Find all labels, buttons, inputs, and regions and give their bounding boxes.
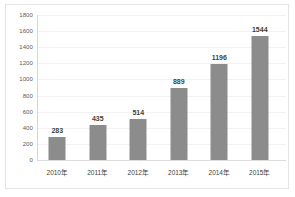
bar-value-label: 1544 (252, 26, 268, 33)
bar-group: 8892013年 (159, 15, 200, 160)
bar-value-label: 514 (132, 109, 144, 116)
x-axis-tick-label: 2013年 (168, 167, 189, 177)
y-axis-tick-label: 1200 (19, 60, 33, 66)
bar[interactable] (170, 88, 187, 160)
bar[interactable] (89, 125, 106, 160)
bar-value-label: 1196 (212, 54, 227, 61)
bar[interactable] (130, 119, 147, 160)
bar-value-label: 283 (51, 127, 63, 134)
y-axis-tick-label: 200 (23, 141, 33, 147)
y-axis-tick-label: 1000 (19, 76, 33, 82)
bar-value-label: 435 (92, 115, 104, 122)
bar-group: 4352011年 (78, 15, 119, 160)
y-axis-tick-label: 400 (23, 125, 33, 131)
bar-group: 2832010年 (37, 15, 78, 160)
x-axis-tick-label: 2012年 (128, 167, 149, 177)
bar[interactable] (211, 64, 228, 160)
y-axis-tick-label: 1600 (19, 28, 33, 34)
bar[interactable] (251, 36, 268, 160)
bar-value-label: 889 (173, 78, 185, 85)
bar-group: 11962014年 (199, 15, 240, 160)
y-axis-tick-label: 800 (23, 93, 33, 99)
y-axis-tick-label: 1800 (19, 12, 33, 18)
bar[interactable] (49, 137, 66, 160)
bar-group: 5142012年 (118, 15, 159, 160)
x-axis-tick-label: 2010年 (47, 167, 68, 177)
x-axis-tick-label: 2015年 (249, 167, 270, 177)
x-axis-tick-label: 2014年 (209, 167, 230, 177)
bar-group: 15442015年 (240, 15, 281, 160)
y-axis-tick-label: 600 (23, 109, 33, 115)
bar-chart: 180016001400120010008006004002000 283201… (5, 4, 289, 189)
gridline (37, 160, 286, 161)
plot-area: 180016001400120010008006004002000 283201… (37, 15, 280, 160)
y-axis-tick-label: 0 (30, 157, 33, 163)
x-axis-tick-label: 2011年 (87, 167, 108, 177)
y-axis-tick-label: 1400 (19, 44, 33, 50)
